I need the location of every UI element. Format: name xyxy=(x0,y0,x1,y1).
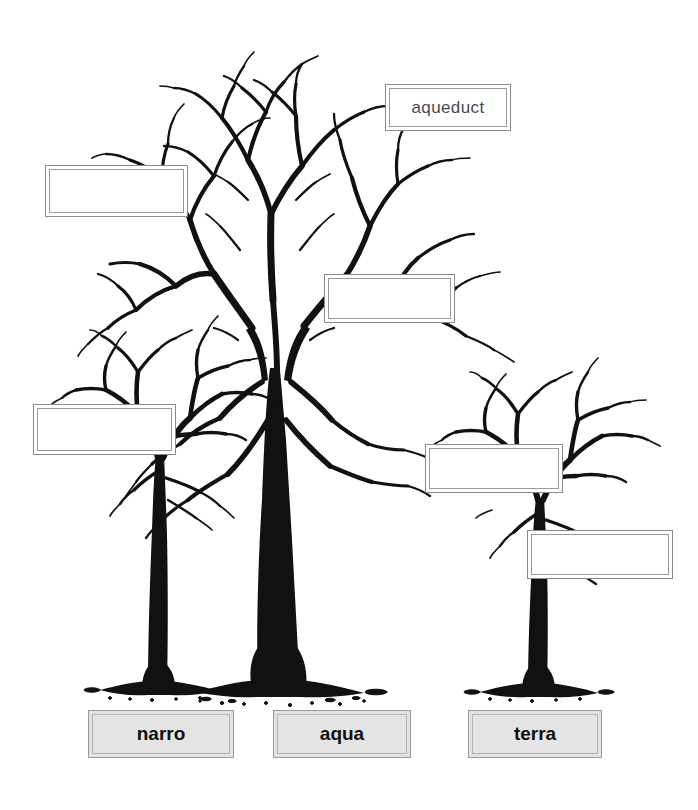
word-box-inner xyxy=(49,169,184,213)
root-word-box-aqua[interactable]: aqua xyxy=(273,710,411,758)
worksheet-page: aqueduct narro aqua xyxy=(0,0,698,810)
word-box-empty-mid-center[interactable] xyxy=(324,274,455,323)
word-box-inner xyxy=(531,534,669,575)
root-word-text: aqua xyxy=(320,723,364,745)
word-box-inner xyxy=(429,448,559,489)
root-word-text: narro xyxy=(137,723,186,745)
word-box-text: aqueduct xyxy=(411,98,484,118)
word-box-empty-terra-upper[interactable] xyxy=(425,444,563,493)
word-box-inner xyxy=(37,408,172,451)
root-word-inner: narro xyxy=(92,714,230,754)
word-box-inner xyxy=(328,278,451,319)
word-box-inner: aqueduct xyxy=(389,88,507,127)
root-word-inner: aqua xyxy=(277,714,407,754)
word-box-aqueduct[interactable]: aqueduct xyxy=(385,84,511,131)
root-word-inner: terra xyxy=(472,714,598,754)
root-word-box-narro[interactable]: narro xyxy=(88,710,234,758)
root-word-box-terra[interactable]: terra xyxy=(468,710,602,758)
word-box-empty-upper-left[interactable] xyxy=(45,165,188,217)
word-box-empty-narro[interactable] xyxy=(33,404,176,455)
aqua-tree-art xyxy=(78,52,514,707)
narro-tree-art xyxy=(52,316,280,702)
root-word-text: terra xyxy=(514,723,556,745)
word-box-empty-terra-lower[interactable] xyxy=(527,530,673,579)
